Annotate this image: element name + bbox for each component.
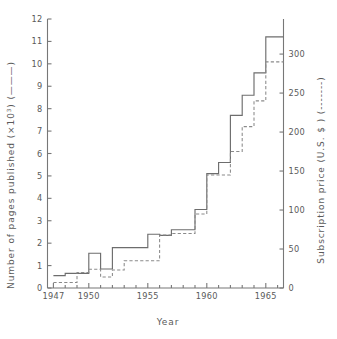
x-tick-label: 1965 bbox=[255, 291, 277, 301]
x-tick-label: 1950 bbox=[78, 291, 100, 301]
left-tick-label: 10 bbox=[31, 59, 42, 69]
right-tick-label: 200 bbox=[289, 127, 306, 137]
left-tick-label: 8 bbox=[37, 104, 43, 114]
right-tick-label: 250 bbox=[289, 88, 306, 98]
left-axis-title-tail: ) (———) bbox=[6, 61, 16, 108]
pages-published-step-line bbox=[53, 37, 283, 276]
x-tick-label: 1947 bbox=[42, 291, 64, 301]
left-tick-label: 1 bbox=[37, 261, 43, 271]
left-axis-title: Number of pages published (×103) (———) bbox=[6, 61, 16, 289]
right-tick-label: 300 bbox=[289, 49, 306, 59]
left-tick-label: 11 bbox=[31, 36, 42, 46]
right-tick-label: 150 bbox=[289, 166, 306, 176]
right-axis-dash-marker: ------- bbox=[316, 81, 326, 110]
left-tick-label: 6 bbox=[37, 149, 43, 159]
left-tick-label: 2 bbox=[37, 238, 43, 248]
left-axis-title-main: Number of pages published (×10 bbox=[6, 112, 16, 289]
x-tick-label: 1955 bbox=[137, 291, 159, 301]
right-tick-label: 0 bbox=[289, 283, 295, 293]
right-tick-label: 50 bbox=[289, 244, 300, 254]
left-tick-label: 9 bbox=[37, 81, 43, 91]
right-axis-title-main: Subscription price (U.S. $ ) ( bbox=[316, 110, 326, 264]
right-axis-title-tail: ) bbox=[316, 76, 326, 80]
right-tick-label: 100 bbox=[289, 205, 306, 215]
left-tick-label: 7 bbox=[37, 126, 43, 136]
left-axis-ticks: 0123456789101112 bbox=[31, 14, 51, 293]
left-tick-label: 3 bbox=[37, 216, 43, 226]
left-tick-label: 4 bbox=[37, 193, 43, 203]
x-axis-title: Year bbox=[156, 317, 180, 327]
chart-figure: 0123456789101112 050100150200250300 1947… bbox=[0, 0, 337, 339]
step-chart: 0123456789101112 050100150200250300 1947… bbox=[0, 0, 337, 339]
right-axis-title: Subscription price (U.S. $ ) (-------) bbox=[316, 76, 326, 263]
x-tick-label: 1960 bbox=[196, 291, 218, 301]
left-tick-label: 12 bbox=[31, 14, 42, 24]
x-axis-ticks: 19471950195519601965 bbox=[42, 283, 277, 301]
left-tick-label: 5 bbox=[37, 171, 43, 181]
